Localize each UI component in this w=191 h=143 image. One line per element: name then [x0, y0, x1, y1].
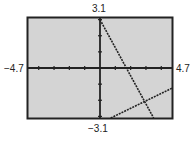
xmin-label: −4.7	[4, 63, 24, 74]
graph	[0, 0, 191, 143]
xmax-label: 4.7	[176, 63, 190, 74]
ymax-label: 3.1	[92, 3, 106, 14]
ymin-label: −3.1	[88, 123, 108, 134]
